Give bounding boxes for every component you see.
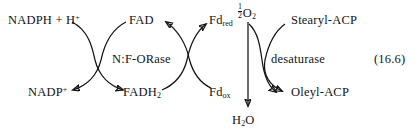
label-stearyl-acp: Stearyl-ACP (291, 14, 357, 27)
label-enzyme-desaturase: desaturase (271, 53, 325, 66)
label-ferredoxin-oxidized: Fdox (209, 86, 231, 100)
arrow-fdox-to-fad (166, 22, 211, 88)
label-oleyl-acp: Oleyl-ACP (291, 86, 349, 99)
label-water: H2O (232, 114, 254, 128)
label-oxygen: 12O2 (238, 3, 256, 21)
label-nadp: NADP+ (28, 86, 67, 99)
label-enzyme-nf-orase: N:F-ORase (112, 53, 171, 66)
equation-number: (16.6) (374, 53, 405, 66)
label-ferredoxin-reduced: Fdred (209, 14, 233, 28)
label-fadh2: FADH2 (123, 86, 161, 100)
label-fad: FAD (129, 14, 154, 27)
reaction-scheme-figure: NADPH + H+ NADP+ FAD FADH2 Fdred Fdox 12… (0, 0, 416, 132)
label-nadph: NADPH + H+ (8, 14, 80, 27)
